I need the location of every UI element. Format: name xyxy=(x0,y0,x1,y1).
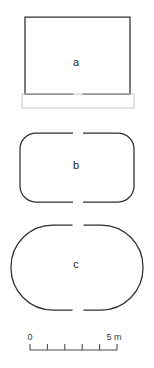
plan-a-annex-rectangle xyxy=(22,94,134,108)
plan-a-label: a xyxy=(73,56,80,68)
scale-bar-ticks xyxy=(30,344,117,350)
scale-bar-group: 0 5 m xyxy=(27,332,121,350)
plan-b-label: b xyxy=(73,159,79,171)
site-plans-figure: a b c 0 5 m xyxy=(0,0,154,368)
scale-bar-start-label: 0 xyxy=(27,332,32,342)
plan-c-label: c xyxy=(73,258,79,270)
scale-bar-end-label: 5 m xyxy=(106,332,121,342)
plan-c-group: c xyxy=(11,225,143,310)
plan-b-group: b xyxy=(20,133,134,202)
plan-a-group: a xyxy=(22,17,134,108)
